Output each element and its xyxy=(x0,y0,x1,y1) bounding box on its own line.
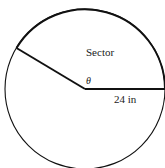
sector-diagram: Sector θ 24 in xyxy=(0,0,165,168)
angle-label: θ xyxy=(86,75,91,86)
radius-left xyxy=(17,48,86,89)
sector-label: Sector xyxy=(86,46,114,58)
radius-label: 24 in xyxy=(114,93,137,105)
